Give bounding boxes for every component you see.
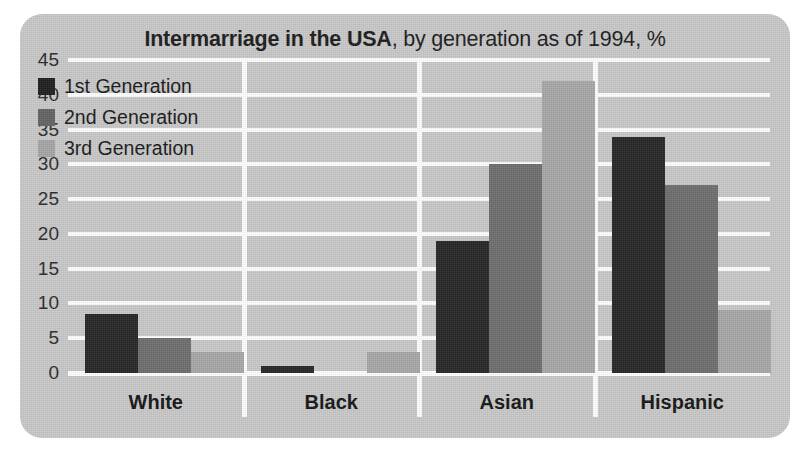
chart-figure: Intermarriage in the USA, by generation … [20,14,790,438]
bar-group-hispanic: Hispanic [595,60,771,373]
legend-item-label: 1st Generation [64,75,192,98]
chart-title-subtitle: , by generation as of 1994, % [392,27,666,51]
legend-item-gen1: 1st Generation [38,71,198,102]
bar-black-gen3 [367,352,420,373]
bar-white-gen3 [191,352,244,373]
y-axis-tick-label: 15 [38,258,59,280]
y-axis-tick-label: 25 [38,188,59,210]
y-axis-tick-label: 10 [38,292,59,314]
bar-group-asian: Asian [419,60,595,373]
bar-asian-gen2 [489,164,542,373]
bar-white-gen2 [138,338,191,373]
bar-hispanic-gen2 [665,185,718,373]
bar-hispanic-gen1 [612,137,665,373]
bar-black-gen1 [261,366,314,373]
bar-group-black: Black [244,60,420,373]
y-axis-tick-label: 45 [38,49,59,71]
chart-title: Intermarriage in the USA, by generation … [20,27,790,52]
bar-asian-gen3 [542,81,595,373]
legend-item-label: 3rd Generation [64,137,194,160]
legend-item-label: 2nd Generation [64,106,198,129]
chart-legend: 1st Generation2nd Generation3rd Generati… [38,71,198,164]
legend-swatch-icon [38,78,55,95]
legend-swatch-icon [38,109,55,126]
chart-title-bold: Intermarriage in the USA [144,27,391,51]
y-axis-tick-label: 5 [48,327,59,349]
legend-item-gen3: 3rd Generation [38,133,198,164]
bar-white-gen1 [85,314,138,373]
y-axis-tick-label: 0 [48,362,59,384]
y-axis-tick-label: 20 [38,223,59,245]
x-axis-category-label: Hispanic [595,391,771,414]
legend-item-gen2: 2nd Generation [38,102,198,133]
legend-swatch-icon [38,140,55,157]
x-axis-category-label: Black [244,391,420,414]
bar-asian-gen1 [436,241,489,373]
x-axis-category-label: Asian [419,391,595,414]
x-axis-category-label: White [68,391,244,414]
bar-hispanic-gen3 [718,310,771,373]
